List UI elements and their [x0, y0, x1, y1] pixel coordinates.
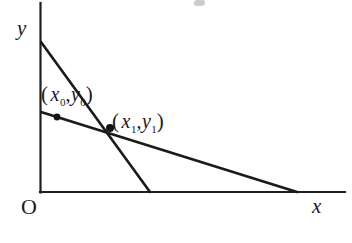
figure-canvas: y x O (x0,y0) (x1,y1) [0, 0, 352, 243]
close-paren: ) [157, 109, 165, 133]
x-variable: x [122, 110, 131, 132]
point-x0-y0-marker [54, 114, 61, 121]
open-paren: ( [41, 82, 49, 106]
y-axis-label: y [17, 18, 26, 39]
y-variable: y [71, 83, 80, 105]
shallow-line [41, 112, 297, 192]
y-variable: y [142, 110, 151, 132]
origin-label: O [21, 196, 37, 218]
coordinate-plot-svg [0, 0, 352, 243]
point-x1-y1-label: (x1,y1) [112, 111, 164, 135]
point-x0-y0-label: (x0,y0) [41, 84, 93, 108]
scan-artifact-smudge [194, 0, 205, 6]
close-paren: ) [86, 82, 94, 106]
x-variable: x [51, 83, 60, 105]
open-paren: ( [112, 109, 120, 133]
x-axis-label: x [312, 196, 321, 217]
